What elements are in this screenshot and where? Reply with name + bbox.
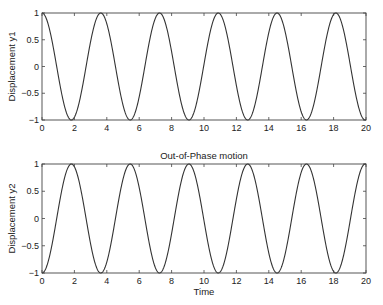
x-tick-label: 20 bbox=[361, 123, 371, 133]
x-tick-label: 4 bbox=[104, 276, 109, 286]
y-tick-label: 0 bbox=[34, 214, 39, 224]
x-tick-label: 2 bbox=[72, 123, 77, 133]
x-tick-label: 20 bbox=[361, 276, 371, 286]
y-axis-label: Displacement y2 bbox=[6, 183, 17, 253]
y-tick-label: 0 bbox=[34, 62, 39, 72]
y-tick-label: −0.5 bbox=[21, 88, 39, 98]
x-tick-label: 14 bbox=[264, 123, 274, 133]
x-tick-label: 6 bbox=[137, 123, 142, 133]
x-tick-label: 8 bbox=[169, 123, 174, 133]
x-tick-label: 4 bbox=[104, 123, 109, 133]
x-tick-label: 6 bbox=[137, 276, 142, 286]
x-tick-label: 10 bbox=[199, 276, 209, 286]
x-tick-label: 12 bbox=[231, 276, 241, 286]
x-tick-label: 2 bbox=[72, 276, 77, 286]
bottom-plot-displacement-y2: 02468101214161820−1−0.500.51Displacement… bbox=[6, 150, 371, 297]
y-tick-label: −1 bbox=[29, 115, 39, 125]
x-tick-label: 18 bbox=[329, 123, 339, 133]
plot-title: Out-of-Phase motion bbox=[160, 150, 248, 161]
y-tick-label: 0.5 bbox=[26, 35, 39, 45]
x-tick-label: 14 bbox=[264, 276, 274, 286]
y-tick-label: −1 bbox=[29, 268, 39, 278]
y-tick-label: 1 bbox=[34, 159, 39, 169]
y-tick-label: −0.5 bbox=[21, 241, 39, 251]
figure: 02468101214161820−1−0.500.51Displacement… bbox=[0, 0, 383, 305]
x-tick-label: 12 bbox=[231, 123, 241, 133]
y-tick-label: 0.5 bbox=[26, 186, 39, 196]
top-plot-displacement-y1: 02468101214161820−1−0.500.51Displacement… bbox=[6, 8, 371, 133]
x-axis-label: Time bbox=[194, 286, 215, 297]
x-tick-label: 0 bbox=[39, 276, 44, 286]
x-tick-label: 16 bbox=[296, 276, 306, 286]
x-tick-label: 8 bbox=[169, 276, 174, 286]
series-line-y1 bbox=[42, 13, 366, 120]
y-axis-label: Displacement y1 bbox=[6, 31, 17, 101]
x-tick-label: 18 bbox=[329, 276, 339, 286]
x-tick-label: 10 bbox=[199, 123, 209, 133]
x-tick-label: 16 bbox=[296, 123, 306, 133]
x-tick-label: 0 bbox=[39, 123, 44, 133]
y-tick-label: 1 bbox=[34, 8, 39, 18]
series-line-y2 bbox=[42, 164, 366, 273]
